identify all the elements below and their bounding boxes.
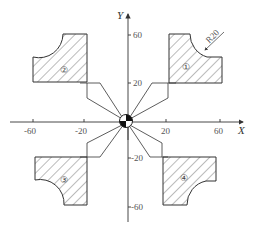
center-pivot-icon: [120, 115, 133, 128]
y-tick-label: 60: [133, 30, 143, 40]
part-3-label: ③: [60, 175, 68, 185]
y-axis-label: Y: [117, 9, 125, 21]
x-tick-label: -20: [75, 126, 87, 136]
part-4: ④: [163, 157, 216, 205]
y-tick-label: -20: [131, 153, 143, 163]
x-tick-label: 60: [214, 126, 224, 136]
radius-annotation: R20: [204, 27, 224, 50]
diagram-canvas: X Y -60 -20 20 60 60 20 -20 -60: [0, 0, 256, 230]
part-2: ②: [33, 34, 87, 82]
radius-label: R20: [204, 27, 222, 45]
part-4-label: ④: [180, 173, 188, 183]
y-tick-label: 20: [133, 78, 143, 88]
part-1-label: ①: [182, 62, 190, 72]
x-axis-label: X: [237, 124, 246, 136]
x-tick-label: -60: [24, 126, 36, 136]
technical-drawing: X Y -60 -20 20 60 60 20 -20 -60: [0, 0, 256, 230]
x-tick-label: 20: [161, 126, 171, 136]
part-2-label: ②: [60, 65, 68, 75]
y-tick-label: -60: [131, 202, 143, 212]
part-3: ③: [35, 157, 87, 205]
